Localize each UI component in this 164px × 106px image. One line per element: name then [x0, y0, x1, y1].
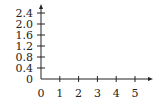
x-tick-label: 4 [113, 87, 120, 100]
chart: 012345 00.40.81.21.62.02.4 [0, 0, 164, 106]
x-tick-label: 1 [56, 87, 63, 100]
y-axis-arrow-icon [39, 4, 43, 9]
y-tick-label: 2.4 [16, 7, 34, 20]
x-tick-label: 5 [132, 87, 139, 100]
x-ticks: 012345 [38, 76, 139, 100]
x-axis-arrow-icon [148, 77, 153, 81]
x-tick-label: 0 [38, 87, 45, 100]
x-tick-label: 3 [94, 87, 101, 100]
x-tick-label: 2 [75, 87, 82, 100]
axes [39, 4, 153, 81]
